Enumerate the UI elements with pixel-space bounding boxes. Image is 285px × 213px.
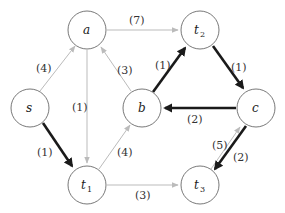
node-c: c <box>237 89 275 127</box>
edge-label-a-t1: (1) <box>72 101 88 114</box>
node-label-s: s <box>26 101 32 115</box>
node-label-c: c <box>252 101 259 115</box>
edge-label-t1-t3: (3) <box>135 189 151 202</box>
node-label-a: a <box>83 23 90 37</box>
edge-label-c-b: (2) <box>187 113 203 126</box>
edge-label-b-t2: (1) <box>155 59 171 72</box>
edge-label-s-t1: (1) <box>37 146 53 159</box>
node-t1: t 1 <box>68 166 106 204</box>
node-sub-t2: 2 <box>200 30 205 39</box>
node-label-t1: t <box>81 178 86 192</box>
node-b: b <box>123 89 161 127</box>
node-s: s <box>11 89 49 127</box>
node-t2: t 2 <box>181 11 219 49</box>
edge-label-s-a: (4) <box>36 62 52 75</box>
node-label-t2: t <box>194 23 199 37</box>
node-label-b: b <box>138 101 146 115</box>
edge-label-b-a: (3) <box>117 64 133 77</box>
edge-s-t1 <box>43 123 72 166</box>
graph-svg: (4) (7) (1) (3) (1) (1) (2) (1) (4) (3) … <box>0 0 285 213</box>
node-a: a <box>68 11 106 49</box>
node-sub-t3: 3 <box>200 185 205 194</box>
edge-label-t2-c: (1) <box>231 61 247 74</box>
node-t3: t 3 <box>181 166 219 204</box>
node-label-t3: t <box>194 178 199 192</box>
edge-label-t1-b: (4) <box>117 146 133 159</box>
edge-label-a-t2: (7) <box>129 14 145 27</box>
graph-diagram: (4) (7) (1) (3) (1) (1) (2) (1) (4) (3) … <box>0 0 285 213</box>
edge-label-t3-c: (5) <box>212 139 228 152</box>
node-sub-t1: 1 <box>87 185 92 194</box>
edge-label-c-t3: (2) <box>233 151 249 164</box>
